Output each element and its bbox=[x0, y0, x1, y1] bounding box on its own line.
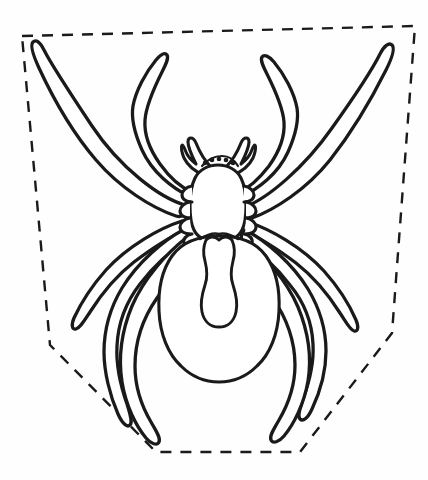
page-root: Spider Cut-Out Template black and white … bbox=[0, 0, 428, 480]
coxa-left-3 bbox=[180, 218, 191, 234]
cephalothorax bbox=[190, 165, 246, 242]
hourglass-marking bbox=[201, 237, 237, 327]
eye-dot-4 bbox=[224, 158, 229, 163]
spider-template-artboard bbox=[0, 0, 428, 480]
coxa-right-3 bbox=[245, 218, 256, 234]
